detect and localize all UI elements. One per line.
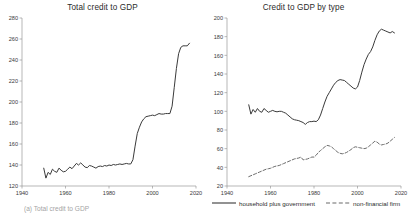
svg-text:40: 40 [217, 165, 223, 171]
chart-panel-credit-by-type: Credit to GDP by type 204060801001201401… [197, 0, 410, 213]
svg-text:220: 220 [9, 78, 18, 84]
svg-text:260: 260 [9, 36, 18, 42]
legend-label-household-plus-government: household plus government [239, 200, 315, 207]
svg-text:140: 140 [9, 162, 18, 168]
svg-text:240: 240 [9, 57, 18, 63]
svg-text:20: 20 [217, 183, 223, 189]
svg-text:160: 160 [214, 53, 223, 59]
svg-text:120: 120 [214, 90, 223, 96]
figure-container: Total credit to GDP 12014016018020022024… [0, 0, 410, 213]
figure-caption: (a) Total credit to GDP [24, 205, 174, 213]
svg-text:160: 160 [9, 141, 18, 147]
svg-text:1980: 1980 [103, 190, 115, 196]
svg-text:1960: 1960 [59, 190, 71, 196]
svg-text:180: 180 [9, 120, 18, 126]
plot-area-left: 1201401601802002202402602801940196019802… [0, 0, 205, 213]
svg-text:100: 100 [214, 109, 223, 115]
svg-text:140: 140 [214, 71, 223, 77]
legend-key-solid-icon [212, 200, 236, 206]
svg-text:120: 120 [9, 183, 18, 189]
chart-legend: household plus government non-financial … [212, 196, 408, 210]
legend-key-dashed-icon [326, 200, 350, 206]
svg-text:280: 280 [9, 15, 18, 21]
legend-item-non-financial-firm: non-financial firm [326, 200, 400, 207]
svg-text:200: 200 [214, 15, 223, 21]
chart-panel-total-credit: Total credit to GDP 12014016018020022024… [0, 0, 205, 213]
svg-text:2000: 2000 [146, 190, 158, 196]
svg-text:180: 180 [214, 34, 223, 40]
legend-label-non-financial-firm: non-financial firm [353, 200, 400, 207]
plot-area-right: 2040608010012014016018020019401960198020… [197, 0, 410, 213]
svg-text:80: 80 [217, 127, 223, 133]
svg-text:200: 200 [9, 99, 18, 105]
svg-text:60: 60 [217, 146, 223, 152]
legend-item-household-plus-government: household plus government [212, 200, 315, 207]
svg-text:1940: 1940 [16, 190, 28, 196]
